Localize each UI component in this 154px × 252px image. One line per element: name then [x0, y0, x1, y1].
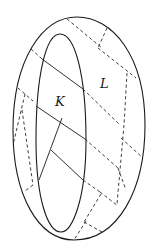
dashed-edge [98, 48, 136, 78]
dashed-edge [83, 180, 100, 192]
dashed-edge [117, 125, 124, 204]
dashed-edge [121, 138, 143, 158]
dashed-edge [84, 222, 102, 232]
solid-chord [39, 118, 62, 180]
dashed-edge [25, 185, 33, 191]
dashed-edge [84, 194, 101, 222]
dashed-edge [22, 110, 33, 185]
dashed-edge [98, 28, 107, 48]
region-label-l: L [99, 76, 109, 91]
dashed-edge [124, 73, 127, 125]
dashed-edge [74, 221, 86, 240]
dashed-edge [18, 88, 33, 101]
annulus-diagram: K L [0, 0, 154, 252]
solid-chord [42, 59, 83, 89]
dashed-edge [31, 49, 42, 59]
dashed-edge [83, 89, 120, 125]
solid-chord [51, 150, 83, 180]
region-label-k: K [54, 94, 66, 109]
dashed-edge [100, 192, 118, 206]
dashed-edge [85, 139, 118, 168]
inner-boundary-curve [36, 34, 86, 232]
